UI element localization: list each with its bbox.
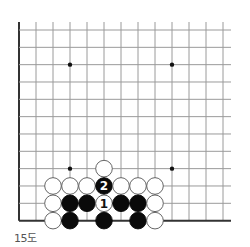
black-stone: 2 — [96, 178, 113, 195]
white-stone — [113, 178, 130, 195]
white-stone — [45, 195, 62, 212]
white-stone — [147, 178, 164, 195]
star-point — [170, 62, 174, 66]
diagram-caption: 15도 — [14, 229, 37, 245]
black-stone — [79, 195, 96, 212]
black-stone — [62, 195, 79, 212]
go-board: 21 — [0, 0, 250, 247]
move-number: 2 — [100, 179, 108, 193]
white-stone — [45, 178, 62, 195]
black-stone — [113, 195, 130, 212]
star-point — [68, 166, 72, 170]
white-stone — [62, 178, 79, 195]
move-number: 1 — [100, 197, 108, 211]
black-stone — [130, 212, 147, 229]
black-stone — [62, 212, 79, 229]
white-stone — [147, 212, 164, 229]
white-stone — [96, 160, 113, 177]
black-stone — [130, 195, 147, 212]
star-point — [68, 62, 72, 66]
star-point — [170, 166, 174, 170]
white-stone — [147, 195, 164, 212]
white-stone — [130, 178, 147, 195]
stones-layer: 21 — [45, 160, 164, 229]
white-stone: 1 — [96, 195, 113, 212]
white-stone — [45, 212, 62, 229]
black-stone — [96, 212, 113, 229]
white-stone — [79, 178, 96, 195]
